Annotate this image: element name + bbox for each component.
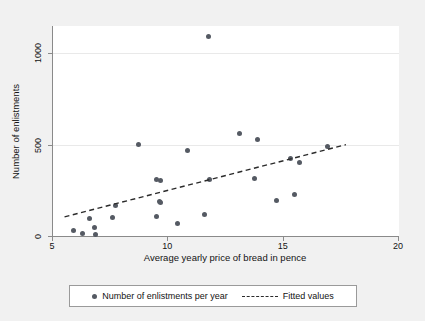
fitted-values-line (53, 26, 399, 236)
x-axis-tick-label: 15 (268, 241, 298, 251)
legend-label-fitted: Fitted values (283, 291, 334, 301)
chart-legend: Number of enlistments per year Fitted va… (69, 285, 357, 307)
legend-label-scatter: Number of enlistments per year (102, 291, 228, 301)
y-axis-tick-label: 1000 (33, 39, 43, 67)
x-axis-tick-label: 10 (152, 241, 182, 251)
legend-marker-dot-icon (92, 294, 97, 299)
plot-area (52, 26, 399, 237)
y-axis-tick-label: 500 (33, 131, 43, 159)
x-axis-tick-label: 5 (37, 241, 67, 251)
legend-entry-fitted: Fitted values (242, 291, 334, 301)
chart-figure: Number of enlistments 05001000 5101520 A… (0, 0, 425, 321)
legend-entry-scatter: Number of enlistments per year (92, 291, 228, 301)
legend-dashed-line-icon (242, 296, 278, 297)
x-axis-label: Average yearly price of bread in pence (52, 252, 398, 263)
x-axis-tick-label: 20 (383, 241, 413, 251)
y-axis-label: Number of enlistments (8, 26, 22, 236)
